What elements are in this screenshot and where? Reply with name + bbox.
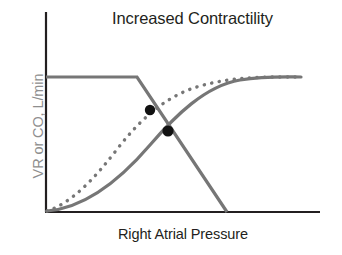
plot-area <box>0 0 342 255</box>
operating-point-normal-marker <box>162 125 173 136</box>
cardiac-output-increased-curve <box>47 77 299 211</box>
y-axis-label: VR or CO, L/min <box>30 51 46 201</box>
cardiac-output-normal-curve <box>47 77 301 211</box>
x-axis-label: Right Atrial Pressure <box>46 226 320 242</box>
figure-container: Increased Contractility Right Atrial Pre… <box>0 0 342 255</box>
chart-title: Increased Contractility <box>60 9 325 28</box>
operating-point-increased-marker <box>145 105 155 115</box>
